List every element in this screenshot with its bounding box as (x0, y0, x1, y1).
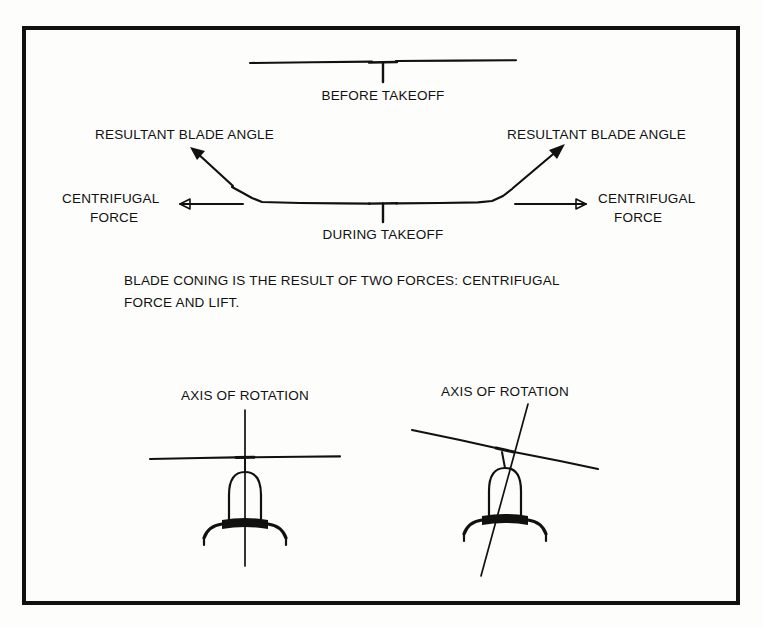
figure-border (24, 28, 738, 603)
figure-page: BEFORE TAKEOFF DURING TAKEOFF RESULTANT … (0, 0, 763, 628)
rotor-disc-left-blade-a (150, 457, 236, 459)
rotor-disc-right-blade-a (412, 430, 496, 448)
rotor-disc-left-blade-b (254, 456, 340, 457)
centrifugal-force-label-right-line2: FORCE (614, 210, 662, 225)
rotor-blade-left-flat (250, 62, 372, 63)
resultant-blade-angle-arrow-right (513, 144, 565, 188)
skid-leg-right-outer (268, 524, 286, 538)
rotor-disc-right-blade-b (514, 452, 598, 469)
resultant-blade-angle-label-left: RESULTANT BLADE ANGLE (95, 127, 274, 142)
centrifugal-force-arrow-right (515, 199, 586, 209)
rotor-blade-left-coned (232, 187, 370, 204)
panel-axis-vertical: AXIS OF ROTATION (150, 388, 340, 566)
panel-axis-tilted: AXIS OF ROTATION (412, 384, 598, 576)
mast-right (502, 452, 505, 468)
centrifugal-force-label-right-line1: CENTRIFUGAL (598, 191, 696, 206)
resultant-blade-angle-arrow-left (190, 147, 233, 186)
rotor-hub-right (496, 448, 514, 452)
rotor-blade-right-coned (396, 189, 512, 203)
panel-during-takeoff: DURING TAKEOFF RESULTANT BLADE ANGLE RES… (62, 127, 696, 242)
fuselage-icon-right (489, 468, 521, 518)
skid-leg-right-panel-right-outer (528, 520, 546, 534)
blade-coning-figure: BEFORE TAKEOFF DURING TAKEOFF RESULTANT … (0, 0, 763, 628)
caption-line-2: FORCE AND LIFT. (124, 295, 240, 310)
skid-leg-right-panel-left-outer (464, 520, 482, 534)
mast-t-icon-during (369, 203, 397, 222)
centrifugal-force-arrow-left (180, 199, 243, 209)
axis-of-rotation-label-right: AXIS OF ROTATION (441, 384, 569, 399)
panel-before-takeoff: BEFORE TAKEOFF (250, 60, 516, 103)
resultant-blade-angle-label-right: RESULTANT BLADE ANGLE (507, 127, 686, 142)
axis-of-rotation-label-left: AXIS OF ROTATION (181, 388, 309, 403)
during-takeoff-label: DURING TAKEOFF (323, 227, 444, 242)
before-takeoff-label: BEFORE TAKEOFF (321, 88, 444, 103)
caption-block: BLADE CONING IS THE RESULT OF TWO FORCES… (124, 273, 560, 310)
landing-skid-icon-right (482, 514, 528, 525)
mast-t-icon (369, 62, 397, 82)
centrifugal-force-label-left-line1: CENTRIFUGAL (62, 191, 160, 206)
caption-line-1: BLADE CONING IS THE RESULT OF TWO FORCES… (124, 273, 560, 288)
centrifugal-force-label-left-line2: FORCE (90, 210, 138, 225)
skid-leg-left-outer (204, 524, 222, 538)
rotor-blade-right-flat (396, 60, 516, 61)
